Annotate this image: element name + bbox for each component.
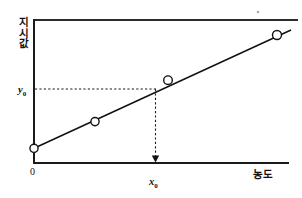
data-point-marker xyxy=(91,118,99,126)
x0-subscript: 0 xyxy=(154,182,158,190)
data-point-marker xyxy=(273,31,282,40)
x0-arrow-head-icon xyxy=(152,156,159,163)
y-axis-title: 지 시 값 xyxy=(16,17,32,49)
data-point-marker xyxy=(30,144,38,152)
x-axis-origin-tick-label: 0 xyxy=(30,166,35,177)
x-axis-title: 농도 xyxy=(253,166,273,181)
calibration-curve-figure: 0 y0 x0 지 시 값 농도 xyxy=(0,0,302,198)
y0-annotation-label: y0 xyxy=(16,84,27,98)
x0-annotation-label: x0 xyxy=(148,176,158,190)
y0-subscript: 0 xyxy=(23,90,27,98)
scan-speck xyxy=(257,11,259,13)
data-point-marker xyxy=(164,76,173,85)
y-axis-title-char-3: 값 xyxy=(19,38,29,49)
